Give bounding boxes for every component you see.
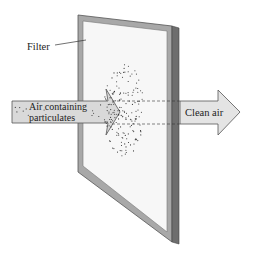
particle-dot <box>106 123 107 124</box>
particle-dot <box>131 121 132 122</box>
particle-dot <box>130 126 131 127</box>
particle-dot <box>111 119 112 120</box>
particle-dot <box>113 112 114 113</box>
particle-dot <box>119 94 120 95</box>
particle-dot <box>109 119 110 120</box>
particle-dot <box>111 104 112 105</box>
particle-dot <box>110 122 111 123</box>
particle-dot <box>117 152 118 153</box>
particle-dot <box>107 107 108 108</box>
particle-dot <box>125 150 126 151</box>
particle-dot <box>125 103 126 104</box>
particle-dot <box>124 111 125 112</box>
particle-dot <box>106 100 107 101</box>
particle-dot <box>128 92 129 93</box>
particle-dot <box>123 132 124 133</box>
particle-dot <box>120 126 121 127</box>
particle-dot <box>139 116 140 117</box>
particle-dot <box>138 103 139 104</box>
particle-dot <box>128 71 129 72</box>
particle-dot <box>126 113 127 114</box>
particle-dot <box>130 144 131 145</box>
particle-dot <box>120 150 121 151</box>
filter-label: Filter <box>27 41 50 52</box>
particle-dot <box>135 118 136 119</box>
particle-dot <box>123 92 124 93</box>
particle-dot <box>122 110 123 111</box>
particle-dot <box>131 73 132 74</box>
particle-dot <box>115 100 116 101</box>
particle-dot <box>120 73 121 74</box>
filter-diagram: Filter Air containing particulates Clean… <box>0 0 253 255</box>
particle-dot <box>137 140 138 141</box>
particle-dot <box>123 72 124 73</box>
particle-dot <box>140 131 141 132</box>
particle-dot <box>120 99 121 100</box>
particle-dot <box>16 111 17 112</box>
particle-dot <box>140 90 141 91</box>
particle-dot <box>122 137 123 138</box>
particle-dot <box>118 118 119 119</box>
particle-dot <box>109 104 110 105</box>
particle-dot <box>104 121 105 122</box>
particle-dot <box>109 125 110 126</box>
particle-dot <box>107 110 108 111</box>
particle-dot <box>114 117 115 118</box>
particle-dot <box>120 92 121 93</box>
particle-dot <box>131 112 132 113</box>
filter-frame-edge <box>172 26 179 244</box>
particle-dot <box>126 138 127 139</box>
particle-dot <box>98 116 99 117</box>
particle-dot <box>125 154 126 155</box>
particle-dot <box>122 77 123 78</box>
particle-dot <box>110 109 111 110</box>
particle-dot <box>125 117 126 118</box>
particle-dot <box>100 104 101 105</box>
particle-dot <box>26 108 27 109</box>
particle-dot <box>118 128 119 129</box>
particle-dot <box>121 107 122 108</box>
particle-dot <box>125 119 126 120</box>
particle-dot <box>111 77 112 78</box>
particle-dot <box>122 116 123 117</box>
particle-dot <box>119 72 120 73</box>
input-label-line1: Air containing <box>29 101 87 112</box>
particle-dot <box>93 113 94 114</box>
particle-dot <box>124 143 125 144</box>
particle-dot <box>108 112 109 113</box>
particle-dot <box>107 122 108 123</box>
particle-dot <box>124 64 125 65</box>
input-label-line2: particulates <box>29 112 75 123</box>
particle-dot <box>140 130 141 131</box>
particle-dot <box>137 88 138 89</box>
particle-dot <box>116 114 117 115</box>
particle-dot <box>113 104 114 105</box>
particle-dot <box>19 107 20 108</box>
particle-dot <box>91 115 92 116</box>
particle-dot <box>135 139 136 140</box>
particle-dot <box>116 135 117 136</box>
particle-dot <box>117 75 118 76</box>
particle-dot <box>137 92 138 93</box>
particle-dot <box>133 90 134 91</box>
particle-dot <box>112 93 113 94</box>
particle-dot <box>121 115 122 116</box>
particle-dot <box>130 76 131 77</box>
particle-dot <box>121 155 122 156</box>
particle-dot <box>142 92 143 93</box>
particle-dot <box>125 93 126 94</box>
particle-dot <box>112 120 113 121</box>
particle-dot <box>108 104 109 105</box>
particle-dot <box>124 72 125 73</box>
particle-dot <box>107 85 108 86</box>
particle-dot <box>132 95 133 96</box>
particle-dot <box>132 92 133 93</box>
particle-dot <box>132 104 133 105</box>
particle-dot <box>121 150 122 151</box>
particle-dot <box>111 114 112 115</box>
particle-dot <box>118 133 119 134</box>
particle-dot <box>133 131 134 132</box>
particle-dot <box>136 83 137 84</box>
particle-dot <box>126 152 127 153</box>
particle-dot <box>109 97 110 98</box>
